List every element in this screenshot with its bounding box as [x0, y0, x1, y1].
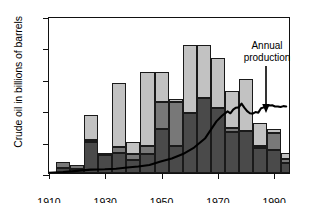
- chart-container: Crude oil in billions of barrels 0102030…: [0, 0, 309, 203]
- annotation-arrow-icon: [0, 0, 309, 203]
